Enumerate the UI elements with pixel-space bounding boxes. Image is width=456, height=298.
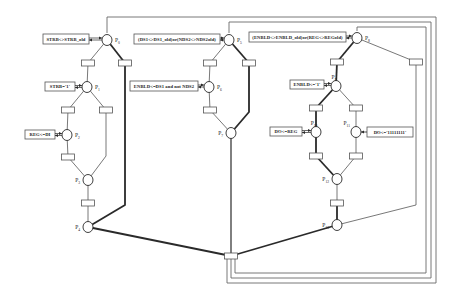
place-label: P1 xyxy=(95,84,100,92)
place-p10: P10 xyxy=(311,120,321,138)
place-p2: P2 xyxy=(62,130,80,141)
place-p8: P8 xyxy=(352,33,370,44)
condition-label: STRB<>STRB_old xyxy=(46,37,85,42)
place-label: P6 xyxy=(217,84,222,92)
condition-label: ENBLD<=DS1 and not NDS2 xyxy=(134,84,195,89)
transition-t12 xyxy=(331,200,344,206)
transition-t1b xyxy=(100,107,113,113)
place-p13: P13 xyxy=(322,220,342,231)
condition-c6: ENBLD<=DS1 and not NDS2 xyxy=(130,81,204,91)
place-p6: P6 xyxy=(204,82,222,93)
condition-c9: ENBLD<='1' xyxy=(290,80,331,89)
condition-label: DO<='11111111' xyxy=(374,130,407,135)
place-label: P2 xyxy=(75,132,80,140)
transition-t1a xyxy=(62,107,75,113)
place-p7: P7 xyxy=(218,128,236,139)
feedback-arc xyxy=(229,22,431,278)
condition-label: STRB='1' xyxy=(50,84,70,89)
condition-label: (DS1<>DS1_old)or(NDS2<>NDS2old) xyxy=(138,37,216,42)
place-label: P0 xyxy=(115,37,120,45)
condition-c2: REG<=DI xyxy=(25,130,62,139)
place-label: P5 xyxy=(237,37,242,45)
place-p9: P9 xyxy=(331,74,341,92)
feedback-arc xyxy=(107,17,436,283)
transitions xyxy=(62,59,423,259)
condition-c11: DO<='11111111' xyxy=(361,127,413,137)
transition-t8b xyxy=(410,59,423,65)
arc xyxy=(88,227,231,256)
condition-c5: (DS1<>DS1_old)or(NDS2<>NDS2old) xyxy=(134,34,224,44)
transition-tjoin xyxy=(225,253,238,259)
condition-c0: STRB<>STRB_old xyxy=(43,34,102,44)
condition-label: DO<=REG xyxy=(275,129,298,134)
petri-net-diagram: STRB<>STRB_oldSTRB='1'REG<=DI(DS1<>DS1_o… xyxy=(0,0,456,298)
place-p5: P5 xyxy=(224,35,242,46)
condition-label: REG<=DI xyxy=(30,132,51,137)
arc xyxy=(357,38,416,62)
arc xyxy=(231,225,337,256)
transition-t10 xyxy=(310,153,323,159)
place-label: P7 xyxy=(218,130,223,138)
condition-c8: (ENBLD<>ENBLD_old)or(REG<>REGold) xyxy=(249,32,352,42)
transition-t11 xyxy=(350,153,363,159)
transition-t8a xyxy=(331,59,344,65)
place-label: P11 xyxy=(343,120,350,128)
condition-label: ENBLD<='1' xyxy=(294,82,321,87)
transition-t2 xyxy=(62,154,75,160)
arc xyxy=(337,62,416,225)
feedback-arcs xyxy=(107,17,436,283)
condition-c10: DO<=REG xyxy=(270,127,311,136)
arc xyxy=(231,63,249,133)
condition-label: (ENBLD<>ENBLD_old)or(REG<>REGold) xyxy=(252,35,343,40)
place-p1: P1 xyxy=(82,82,100,93)
place-p4: P4 xyxy=(75,222,93,233)
transition-t3 xyxy=(82,200,95,206)
arc xyxy=(88,110,106,180)
transition-t6 xyxy=(204,107,217,113)
transition-t5a xyxy=(204,60,217,66)
transition-t0b xyxy=(119,60,132,66)
condition-c1: STRB='1' xyxy=(45,82,82,91)
place-p12: P12 xyxy=(322,174,342,185)
transition-t5b xyxy=(243,60,256,66)
place-p0: P0 xyxy=(102,35,120,46)
transition-t9a xyxy=(310,105,323,111)
arcs xyxy=(67,38,416,256)
place-label: P3 xyxy=(75,177,80,185)
place-p11: P11 xyxy=(343,120,361,138)
place-p3: P3 xyxy=(75,175,93,186)
transition-t0a xyxy=(82,60,95,66)
place-label: P12 xyxy=(322,176,329,184)
place-label: P4 xyxy=(75,224,80,232)
transition-t9b xyxy=(350,105,363,111)
